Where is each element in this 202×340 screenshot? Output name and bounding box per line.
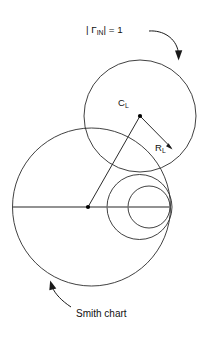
center-cl-label-subscript: L: [125, 102, 129, 109]
figure-background: [0, 0, 202, 340]
smith-chart-figure: | ΓIN| = 1 CL RL Smith chart: [0, 0, 202, 340]
figure-canvas: | ΓIN| = 1 CL RL Smith chart: [0, 0, 202, 340]
gamma-in-label-suffix: | = 1: [104, 24, 123, 35]
stability-circle-center-dot: [138, 114, 142, 118]
radius-rl-label-subscript: L: [162, 147, 166, 154]
smith-chart-origin-dot: [86, 205, 90, 209]
gamma-in-label: | ΓIN| = 1: [86, 24, 123, 36]
smith-chart-label: Smith chart: [76, 308, 127, 319]
